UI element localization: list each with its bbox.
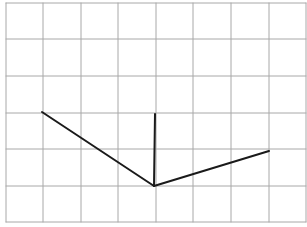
grid-drawing <box>0 0 307 227</box>
grid-lines <box>6 3 306 222</box>
segment-vertical-arm <box>154 114 155 186</box>
grid-diagram <box>0 0 307 227</box>
segment-right-arm <box>154 151 269 186</box>
